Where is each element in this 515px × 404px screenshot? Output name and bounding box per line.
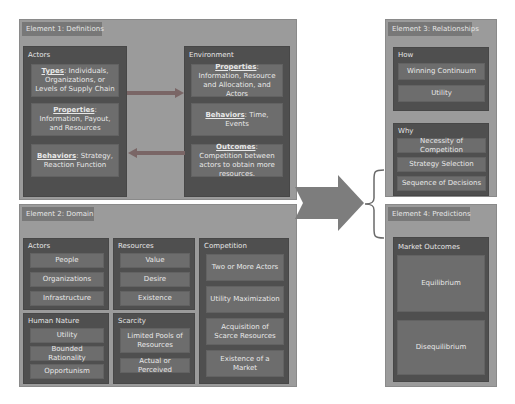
list-item: Utility xyxy=(30,328,104,343)
element1-actors-group: Actors Types: Individuals, Organizations… xyxy=(23,46,127,197)
list-item: Equilibrium xyxy=(397,255,485,312)
item-key: Types xyxy=(42,67,64,75)
element3-panel: Element 3: Relationships How Winning Con… xyxy=(385,19,497,197)
element4-panel: Element 4: Predictions Market Outcomes E… xyxy=(385,204,497,387)
group-title: Actors xyxy=(28,51,50,59)
environment-outcomes-item: Outcomes: Competition between actors to … xyxy=(191,144,283,177)
element4-title: Element 4: Predictions xyxy=(388,207,470,221)
item-key: Outcomes xyxy=(216,143,255,151)
domain-human-nature-group: Human Nature Utility Bounded Rationality… xyxy=(23,313,109,384)
list-item: Desire xyxy=(120,272,190,287)
list-item: Infrastructure xyxy=(30,291,104,306)
item-key: Properties xyxy=(215,63,256,71)
group-title: How xyxy=(398,51,413,59)
list-item: Existence xyxy=(120,291,190,306)
list-item: Opportunism xyxy=(30,364,104,379)
actors-types-item: Types: Individuals, Organizations, or Le… xyxy=(31,64,119,97)
list-item: Necessity of Competition xyxy=(397,138,486,153)
list-item: Value xyxy=(120,253,190,268)
domain-scarcity-group: Scarcity Limited Pools of Resources Actu… xyxy=(113,313,195,384)
list-item: Sequence of Decisions xyxy=(397,176,486,191)
environment-properties-item: Properties: Information, Resource and Al… xyxy=(191,64,283,97)
list-item: Disequilibrium xyxy=(397,320,485,375)
arrow-right-icon xyxy=(127,88,185,98)
domain-actors-group: Actors People Organizations Infrastructu… xyxy=(23,238,109,310)
element1-title: Element 1: Definitions xyxy=(22,22,102,36)
brace-icon xyxy=(362,168,386,240)
list-item: Limited Pools of Resources xyxy=(120,328,190,353)
group-title: Why xyxy=(398,127,414,135)
group-title: Environment xyxy=(189,51,234,59)
environment-behaviors-item: Behaviors: Time, Events xyxy=(191,103,283,136)
how-group: How Winning Continuum Utility xyxy=(393,47,489,111)
element1-environment-group: Environment Properties: Information, Res… xyxy=(184,46,290,197)
group-title: Competition xyxy=(204,242,247,250)
group-title: Resources xyxy=(118,242,154,250)
list-item: Winning Continuum xyxy=(398,63,485,80)
actors-behaviors-item: Behaviors: Strategy, Reaction Function xyxy=(31,144,119,177)
list-item: Acquisition of Scarce Resources xyxy=(206,318,284,345)
actors-properties-item: Properties: Information, Payout, and Res… xyxy=(31,103,119,136)
group-title: Human Nature xyxy=(28,317,79,325)
arrow-left-icon xyxy=(127,148,185,158)
list-item: Bounded Rationality xyxy=(30,346,104,361)
element1-panel: Element 1: Definitions Actors Types: Ind… xyxy=(19,19,297,200)
list-item: Strategy Selection xyxy=(397,157,486,172)
domain-competition-group: Competition Two or More Actors Utility M… xyxy=(199,238,289,384)
group-title: Actors xyxy=(28,242,50,250)
list-item: Utility xyxy=(398,85,485,102)
list-item: Utility Maximization xyxy=(206,286,284,313)
list-item: Actual or Perceived xyxy=(120,358,190,373)
list-item: Organizations xyxy=(30,272,104,287)
group-title: Market Outcomes xyxy=(398,243,460,251)
element3-title: Element 3: Relationships xyxy=(388,22,472,36)
element2-title: Element 2: Domain xyxy=(22,207,94,221)
domain-resources-group: Resources Value Desire Existence xyxy=(113,238,195,310)
item-key: Properties xyxy=(53,106,94,114)
list-item: Two or More Actors xyxy=(206,254,284,281)
element2-panel: Element 2: Domain Actors People Organiza… xyxy=(19,204,297,387)
big-arrow-icon xyxy=(295,175,365,232)
list-item: People xyxy=(30,253,104,268)
item-key: Behaviors xyxy=(37,152,76,160)
why-group: Why Necessity of Competition Strategy Se… xyxy=(393,123,489,196)
group-title: Scarcity xyxy=(118,317,146,325)
market-outcomes-group: Market Outcomes Equilibrium Disequilibri… xyxy=(393,237,489,382)
item-key: Behaviors xyxy=(205,111,244,119)
list-item: Existence of a Market xyxy=(206,350,284,377)
